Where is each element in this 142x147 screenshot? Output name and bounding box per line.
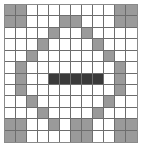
grid-cell-r1-c9[interactable] (104, 16, 115, 27)
grid-cell-r2-c8[interactable] (93, 28, 104, 39)
grid-cell-r7-c0[interactable] (5, 85, 16, 96)
grid-cell-r1-c3[interactable] (38, 16, 49, 27)
grid-cell-r4-c11[interactable] (126, 51, 137, 62)
grid-cell-r1-c1[interactable] (16, 16, 27, 27)
grid-cell-r10-c6[interactable] (71, 119, 82, 130)
grid-cell-r7-c5[interactable] (60, 85, 71, 96)
grid-cell-r0-c9[interactable] (104, 5, 115, 16)
grid-cell-r4-c9[interactable] (104, 51, 115, 62)
grid-cell-r3-c10[interactable] (115, 39, 126, 50)
grid-cell-r4-c4[interactable] (49, 51, 60, 62)
grid-cell-r11-c0[interactable] (5, 131, 16, 142)
grid-cell-r4-c7[interactable] (82, 51, 93, 62)
grid-cell-r3-c4[interactable] (49, 39, 60, 50)
grid-cell-r4-c0[interactable] (5, 51, 16, 62)
grid-cell-r2-c4[interactable] (49, 28, 60, 39)
grid-cell-r7-c6[interactable] (71, 85, 82, 96)
grid-cell-r5-c3[interactable] (38, 62, 49, 73)
grid-cell-r9-c7[interactable] (82, 108, 93, 119)
grid-cell-r3-c9[interactable] (104, 39, 115, 50)
grid-cell-r9-c5[interactable] (60, 108, 71, 119)
grid-cell-r6-c5[interactable] (60, 74, 71, 85)
grid-cell-r9-c10[interactable] (115, 108, 126, 119)
grid-cell-r3-c11[interactable] (126, 39, 137, 50)
grid-cell-r2-c11[interactable] (126, 28, 137, 39)
grid-cell-r10-c3[interactable] (38, 119, 49, 130)
grid-cell-r8-c8[interactable] (93, 96, 104, 107)
grid-cell-r11-c5[interactable] (60, 131, 71, 142)
grid-cell-r3-c0[interactable] (5, 39, 16, 50)
grid-cell-r3-c2[interactable] (27, 39, 38, 50)
grid-cell-r10-c8[interactable] (93, 119, 104, 130)
grid-cell-r9-c0[interactable] (5, 108, 16, 119)
grid-cell-r8-c5[interactable] (60, 96, 71, 107)
grid-cell-r7-c2[interactable] (27, 85, 38, 96)
grid-cell-r4-c8[interactable] (93, 51, 104, 62)
grid-cell-r4-c5[interactable] (60, 51, 71, 62)
grid-cell-r4-c2[interactable] (27, 51, 38, 62)
grid-cell-r5-c11[interactable] (126, 62, 137, 73)
grid-cell-r10-c4[interactable] (49, 119, 60, 130)
grid-cell-r6-c1[interactable] (16, 74, 27, 85)
grid-cell-r11-c9[interactable] (104, 131, 115, 142)
grid-cell-r10-c7[interactable] (82, 119, 93, 130)
grid-cell-r8-c11[interactable] (126, 96, 137, 107)
grid-cell-r9-c4[interactable] (49, 108, 60, 119)
grid-cell-r10-c11[interactable] (126, 119, 137, 130)
grid-cell-r7-c7[interactable] (82, 85, 93, 96)
grid-cell-r5-c5[interactable] (60, 62, 71, 73)
grid-cell-r7-c4[interactable] (49, 85, 60, 96)
grid-cell-r7-c1[interactable] (16, 85, 27, 96)
grid-cell-r0-c7[interactable] (82, 5, 93, 16)
grid-cell-r5-c0[interactable] (5, 62, 16, 73)
grid-cell-r2-c9[interactable] (104, 28, 115, 39)
grid-cell-r3-c1[interactable] (16, 39, 27, 50)
grid-cell-r2-c10[interactable] (115, 28, 126, 39)
grid-cell-r5-c1[interactable] (16, 62, 27, 73)
grid-cell-r10-c0[interactable] (5, 119, 16, 130)
grid-cell-r2-c1[interactable] (16, 28, 27, 39)
grid-cell-r8-c6[interactable] (71, 96, 82, 107)
grid-cell-r8-c3[interactable] (38, 96, 49, 107)
grid-cell-r4-c10[interactable] (115, 51, 126, 62)
grid-cell-r0-c8[interactable] (93, 5, 104, 16)
grid-cell-r5-c10[interactable] (115, 62, 126, 73)
grid-cell-r9-c8[interactable] (93, 108, 104, 119)
grid-cell-r1-c0[interactable] (5, 16, 16, 27)
grid-cell-r0-c10[interactable] (115, 5, 126, 16)
grid-cell-r7-c3[interactable] (38, 85, 49, 96)
grid-cell-r2-c0[interactable] (5, 28, 16, 39)
cell-grid[interactable] (5, 5, 137, 142)
grid-cell-r2-c5[interactable] (60, 28, 71, 39)
grid-cell-r1-c5[interactable] (60, 16, 71, 27)
grid-cell-r4-c6[interactable] (71, 51, 82, 62)
grid-cell-r11-c2[interactable] (27, 131, 38, 142)
grid-cell-r7-c10[interactable] (115, 85, 126, 96)
grid-cell-r6-c0[interactable] (5, 74, 16, 85)
grid-cell-r6-c10[interactable] (115, 74, 126, 85)
grid-cell-r3-c7[interactable] (82, 39, 93, 50)
grid-cell-r3-c6[interactable] (71, 39, 82, 50)
grid-cell-r8-c7[interactable] (82, 96, 93, 107)
grid-cell-r4-c3[interactable] (38, 51, 49, 62)
grid-cell-r7-c9[interactable] (104, 85, 115, 96)
grid-cell-r0-c4[interactable] (49, 5, 60, 16)
grid-cell-r11-c1[interactable] (16, 131, 27, 142)
grid-cell-r11-c8[interactable] (93, 131, 104, 142)
grid-cell-r0-c1[interactable] (16, 5, 27, 16)
grid-cell-r9-c3[interactable] (38, 108, 49, 119)
grid-cell-r9-c1[interactable] (16, 108, 27, 119)
grid-cell-r1-c8[interactable] (93, 16, 104, 27)
grid-cell-r5-c4[interactable] (49, 62, 60, 73)
grid-cell-r5-c8[interactable] (93, 62, 104, 73)
grid-cell-r8-c0[interactable] (5, 96, 16, 107)
grid-cell-r5-c2[interactable] (27, 62, 38, 73)
grid-cell-r11-c3[interactable] (38, 131, 49, 142)
grid-cell-r6-c4[interactable] (49, 74, 60, 85)
grid-cell-r2-c7[interactable] (82, 28, 93, 39)
grid-cell-r10-c1[interactable] (16, 119, 27, 130)
grid-cell-r9-c6[interactable] (71, 108, 82, 119)
grid-cell-r5-c7[interactable] (82, 62, 93, 73)
grid-cell-r1-c6[interactable] (71, 16, 82, 27)
grid-cell-r8-c9[interactable] (104, 96, 115, 107)
